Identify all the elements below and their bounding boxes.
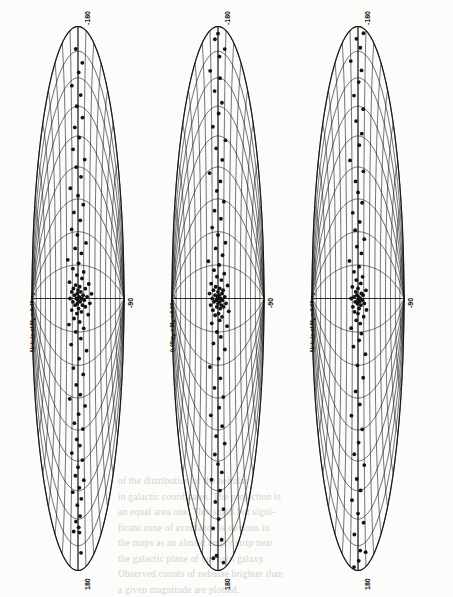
data-point [81, 373, 85, 377]
data-point [362, 521, 366, 525]
data-point [222, 507, 226, 511]
panel-3-tick-top: -180 [364, 11, 371, 25]
data-point [66, 258, 70, 262]
data-point [67, 323, 71, 327]
data-point [354, 318, 358, 322]
data-point [209, 413, 213, 417]
data-point [216, 462, 220, 466]
panel-1: Nebula of Mp < 0.48mp-180180-90 [8, 0, 148, 597]
data-point [69, 343, 73, 347]
data-point [357, 80, 361, 84]
data-point [83, 158, 87, 162]
data-point [225, 324, 229, 328]
data-point [77, 486, 81, 490]
panel-2-tick-bottom: 180 [224, 578, 231, 590]
data-point [77, 412, 81, 416]
data-point [223, 295, 227, 299]
panel-2: 0.48mp < Mp < 0.68mp-180180-90 [148, 0, 288, 597]
data-point [215, 554, 219, 558]
data-point [70, 227, 74, 231]
data-point [360, 292, 364, 296]
data-point [210, 478, 214, 482]
data-point [90, 292, 94, 296]
data-point [356, 512, 360, 516]
data-point [83, 404, 87, 408]
data-point [73, 125, 77, 129]
data-point [216, 32, 220, 36]
data-point [81, 203, 85, 207]
data-point [352, 345, 356, 349]
data-point [217, 406, 221, 410]
data-point [213, 453, 217, 457]
data-point [360, 69, 364, 73]
data-point [72, 317, 76, 321]
data-point [348, 259, 352, 263]
data-point [361, 376, 365, 380]
data-point [350, 414, 354, 418]
data-point [73, 421, 77, 425]
panel-1-tick-center: -90 [127, 297, 134, 307]
data-point [227, 309, 231, 313]
data-point [357, 143, 361, 147]
data-point [221, 253, 225, 257]
data-point [220, 538, 224, 542]
data-point [219, 217, 223, 221]
data-point [71, 300, 75, 304]
data-point [71, 490, 75, 494]
data-point [208, 365, 212, 369]
data-point [77, 357, 81, 361]
data-point [79, 497, 83, 501]
data-point [76, 194, 80, 198]
data-point [357, 265, 361, 269]
data-point [74, 165, 78, 169]
data-point [210, 297, 214, 301]
data-point [75, 273, 79, 277]
data-point [70, 451, 74, 455]
data-point [74, 47, 78, 51]
data-point [68, 186, 72, 190]
data-point [364, 550, 368, 554]
data-point [213, 293, 217, 297]
data-point [80, 61, 84, 65]
data-point [359, 489, 363, 493]
data-point [77, 295, 81, 299]
data-point [360, 201, 364, 205]
data-point [223, 442, 227, 446]
data-point [83, 287, 87, 291]
data-point [213, 500, 217, 504]
data-point [352, 565, 356, 569]
data-point [220, 101, 224, 105]
data-point [218, 376, 222, 380]
data-point [80, 310, 84, 314]
data-point [221, 395, 225, 399]
data-point [352, 270, 356, 274]
data-point [218, 307, 222, 311]
data-point [78, 444, 82, 448]
data-point [360, 427, 364, 431]
data-point [210, 321, 214, 325]
data-point [226, 284, 230, 288]
data-point [223, 47, 227, 51]
data-point [68, 280, 72, 284]
data-point [362, 237, 366, 241]
data-point [354, 290, 358, 294]
data-point [354, 278, 358, 282]
data-point [72, 211, 76, 215]
data-point [77, 307, 81, 311]
data-point [217, 112, 221, 116]
data-point [360, 252, 364, 256]
data-point [213, 209, 217, 213]
data-point [82, 478, 86, 482]
data-point [222, 200, 226, 204]
data-point [77, 261, 81, 265]
panel-3: Nebula of Mp > 0.68mp-180180-90 [288, 0, 428, 597]
data-point [362, 315, 366, 319]
data-point [355, 245, 359, 249]
data-point [70, 84, 74, 88]
data-point [221, 288, 225, 292]
panel-1-tick-top: -180 [84, 11, 91, 25]
data-point [74, 474, 78, 478]
data-point [214, 285, 218, 289]
data-point [354, 389, 358, 393]
data-point [76, 233, 80, 237]
